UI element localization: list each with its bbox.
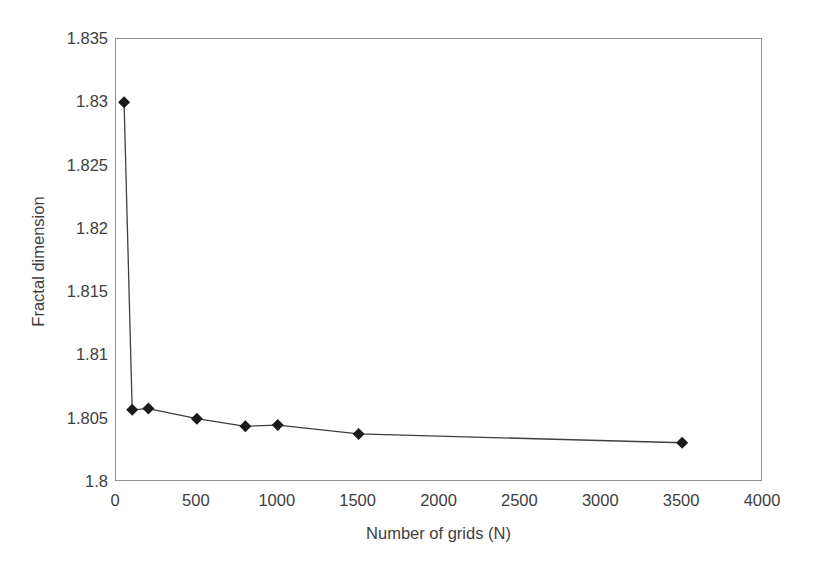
data-point-marker	[126, 404, 138, 416]
x-tick-label: 0	[110, 492, 119, 509]
plot-area	[115, 38, 762, 481]
x-axis-title: Number of grids (N)	[115, 524, 762, 543]
y-axis-title: Fractal dimension	[29, 132, 48, 392]
y-tick-label: 1.835	[0, 30, 108, 47]
x-axis-tick-labels: 05001000150020002500300035004000	[0, 492, 813, 516]
x-tick-label: 3500	[663, 492, 700, 509]
plot-svg	[116, 39, 763, 482]
y-tick-label: 1.815	[0, 283, 108, 300]
data-point-marker	[272, 419, 284, 431]
x-tick-label: 1500	[339, 492, 376, 509]
data-point-marker	[142, 403, 154, 415]
data-point-marker	[676, 437, 688, 449]
y-tick-label: 1.825	[0, 156, 108, 173]
y-tick-label: 1.8	[0, 473, 108, 490]
x-tick-label: 2000	[420, 492, 457, 509]
series-line	[124, 102, 682, 442]
fractal-dimension-line-chart: 1.81.8051.811.8151.821.8251.831.835 0500…	[0, 0, 813, 576]
data-point-marker	[239, 420, 251, 432]
y-tick-label: 1.83	[0, 93, 108, 110]
y-tick-label: 1.805	[0, 409, 108, 426]
data-point-marker	[118, 96, 130, 108]
data-point-marker	[191, 413, 203, 425]
y-tick-label: 1.81	[0, 346, 108, 363]
series-markers	[118, 96, 688, 448]
y-tick-label: 1.82	[0, 220, 108, 237]
x-tick-label: 500	[182, 492, 210, 509]
data-point-marker	[353, 428, 365, 440]
y-axis-tick-labels: 1.81.8051.811.8151.821.8251.831.835	[0, 0, 108, 576]
x-tick-label: 1000	[258, 492, 295, 509]
x-tick-label: 4000	[744, 492, 781, 509]
x-tick-label: 2500	[501, 492, 538, 509]
x-tick-label: 3000	[582, 492, 619, 509]
